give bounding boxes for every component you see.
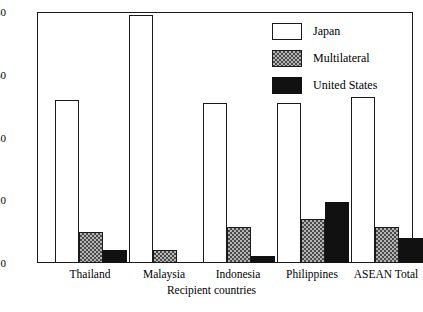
y-tick-label-0: 0 [0, 258, 6, 269]
bar-philippines-japan[interactable] [277, 103, 301, 263]
bar-indonesia-united-states[interactable] [251, 256, 275, 263]
x-tick-label-philippines: Philippines [277, 268, 347, 281]
x-tick-label-malaysia: Malaysia [129, 268, 199, 281]
y-tick-label-60: 60 [0, 70, 6, 81]
x-tick-label-asean-total: ASEAN Total [351, 268, 421, 281]
y-tick-label-40: 40 [0, 133, 6, 144]
legend-item-multilateral[interactable]: Multilateral [272, 47, 402, 69]
bar-thailand-japan[interactable] [55, 100, 79, 263]
y-tick-label-20: 20 [0, 195, 6, 206]
bar-asean-total-japan[interactable] [351, 97, 375, 263]
legend-label-multilateral: Multilateral [313, 52, 370, 65]
x-tick-label-indonesia: Indonesia [203, 268, 273, 281]
bar-asean-total-united-states[interactable] [399, 238, 423, 263]
x-axis-title: Recipient countries [0, 284, 423, 297]
bar-philippines-united-states[interactable] [325, 202, 349, 263]
y-tick-label-80: 80 [0, 7, 6, 18]
legend-item-united-states[interactable]: United States [272, 74, 402, 96]
bar-malaysia-japan[interactable] [129, 15, 153, 263]
legend-label-japan: Japan [313, 25, 340, 38]
legend: Japan Multilateral United States [272, 20, 402, 101]
bar-malaysia-multilateral[interactable] [153, 250, 177, 263]
x-tick-label-thailand: Thailand [55, 268, 125, 281]
bar-indonesia-multilateral[interactable] [227, 227, 251, 263]
bar-group-thailand [55, 12, 125, 263]
open-square-icon [272, 23, 302, 40]
bar-thailand-multilateral[interactable] [79, 232, 103, 263]
bar-indonesia-japan[interactable] [203, 103, 227, 263]
bar-philippines-multilateral[interactable] [301, 219, 325, 263]
bar-group-indonesia [203, 12, 273, 263]
bar-asean-total-multilateral[interactable] [375, 227, 399, 263]
legend-item-japan[interactable]: Japan [272, 20, 402, 42]
legend-label-united-states: United States [313, 79, 377, 92]
bar-thailand-united-states[interactable] [103, 250, 127, 263]
checkered-square-icon [272, 50, 302, 67]
filled-square-icon [272, 77, 302, 94]
bar-group-malaysia [129, 12, 199, 263]
bar-chart: 0 20 40 60 80 [0, 0, 423, 312]
